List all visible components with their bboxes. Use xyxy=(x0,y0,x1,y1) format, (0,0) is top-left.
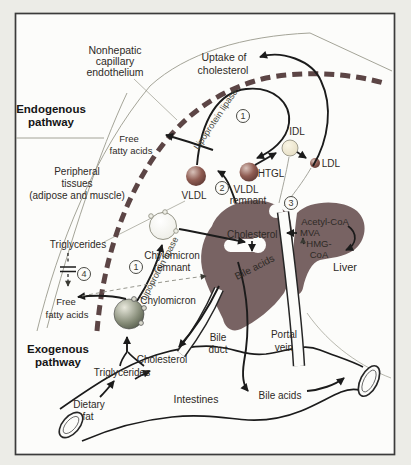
step-1-number: 1 xyxy=(133,262,138,272)
chylomicron-remnant-label: Chylomicron xyxy=(144,250,200,261)
vldl-particle xyxy=(186,166,206,186)
step-3-number: 3 xyxy=(288,198,293,208)
free-fatty-acids-bottom-label: Free xyxy=(56,296,76,307)
htgl-label: HTGL xyxy=(258,168,285,179)
lipoprotein-metabolism-diagram: Nonhepatic capillary endothelium Uptake … xyxy=(0,0,411,465)
liver-label: Liver xyxy=(333,261,357,273)
free-fatty-acids-top-label: fatty acids xyxy=(110,145,153,156)
triglycerides-intestine-label: Triglycerides xyxy=(94,367,150,378)
endogenous-pathway-label: Endogenous xyxy=(16,103,86,115)
dietary-fat-label: fat xyxy=(82,411,93,422)
vldl-label: VLDL xyxy=(181,190,206,201)
vldl-remnant-label: VLDL xyxy=(233,184,258,195)
dietary-fat-label: Dietary xyxy=(73,399,105,410)
cholesterol-intestine-label: Cholesterol xyxy=(137,354,188,365)
hmg-coa-label: HMG- xyxy=(306,238,331,249)
portal-vein-label: Portal xyxy=(271,329,297,340)
endogenous-pathway-label: pathway xyxy=(28,116,75,128)
bile-duct-label: duct xyxy=(209,344,228,355)
chylomicron-label: Chylomicron xyxy=(140,295,196,306)
mva-label: MVA xyxy=(300,227,321,238)
peripheral-tissues-label: (adipose and muscle) xyxy=(29,190,125,201)
step-3-circle: 3 xyxy=(285,197,298,210)
exogenous-pathway-label: pathway xyxy=(35,356,82,368)
step-2-circle: 2 xyxy=(216,182,229,195)
intestines-label: Intestines xyxy=(174,393,219,405)
uptake-cholesterol-label: Uptake of xyxy=(202,51,247,63)
triglycerides-tissue-label: Triglycerides xyxy=(50,239,106,250)
step-4-number: 4 xyxy=(81,269,86,279)
bile-duct-label: Bile xyxy=(210,332,227,343)
step-2-number: 2 xyxy=(219,183,224,193)
idl-particle xyxy=(282,140,298,156)
free-fatty-acids-top-label: Free xyxy=(119,133,139,144)
free-fatty-acids-bottom-label: fatty acids xyxy=(46,309,89,320)
peripheral-tissues-label: tissues xyxy=(61,178,92,189)
bile-acids-intestine-label: Bile acids xyxy=(259,390,302,401)
acetyl-coa-label: Acetyl-CoA xyxy=(301,216,349,227)
hmg-coa-label: CoA xyxy=(310,249,329,260)
step-1-circle: 1 xyxy=(237,110,250,123)
vldl-remnant-label: remnant xyxy=(230,195,267,206)
portal-vein-label: vein xyxy=(275,342,293,353)
peripheral-tissues-label: Peripheral xyxy=(54,166,100,177)
ldl-label: LDL xyxy=(322,158,341,169)
figure-page: Nonhepatic capillary endothelium Uptake … xyxy=(0,0,411,465)
uptake-cholesterol-label: cholesterol xyxy=(198,64,249,76)
step-1-number: 1 xyxy=(240,111,245,121)
chylomicron-remnant-label: remnant xyxy=(154,262,191,273)
step-4-circle: 4 xyxy=(78,268,91,281)
cholesterol-liver-label: Cholesterol xyxy=(227,229,278,240)
step-1-circle: 1 xyxy=(130,261,143,274)
idl-label: IDL xyxy=(289,126,305,137)
exogenous-pathway-label: Exogenous xyxy=(27,343,89,355)
nonhepatic-label: endothelium xyxy=(86,66,143,78)
